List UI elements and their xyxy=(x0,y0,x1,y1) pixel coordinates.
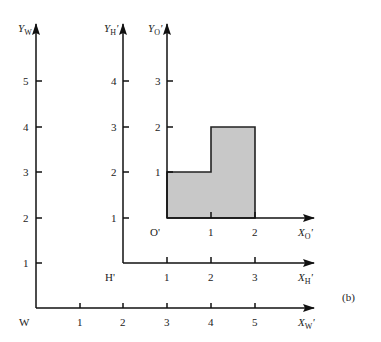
object-x-axis-label: XO' xyxy=(297,226,314,241)
house-y-tick-3: 3 xyxy=(111,121,117,133)
house-x-tick-2: 2 xyxy=(208,271,214,283)
panel-label: (b) xyxy=(342,291,355,304)
house-x-tick-1: 1 xyxy=(164,271,170,283)
l-shaped-object xyxy=(167,127,255,218)
world-x-tick-5: 5 xyxy=(252,316,258,328)
world-y-tick-4: 4 xyxy=(23,121,29,133)
house-x-axis-label: XH' xyxy=(297,271,314,286)
world-x-axis-label: XW' xyxy=(297,316,315,331)
house-y-axis-label: YH' xyxy=(104,22,119,37)
house-y-tick-4: 4 xyxy=(111,75,117,87)
object-y-tick-2: 2 xyxy=(155,121,161,133)
world-x-tick-3: 3 xyxy=(164,316,170,328)
house-y-tick-2: 2 xyxy=(111,166,117,178)
world-y-tick-3: 3 xyxy=(23,166,29,178)
world-x-tick-2: 2 xyxy=(120,316,126,328)
object-origin-label: O' xyxy=(150,226,160,238)
world-y-tick-5: 5 xyxy=(23,75,29,87)
world-frame xyxy=(36,24,314,308)
coordinate-diagram: W 1 2 3 4 5 1 2 3 4 5 YW XW' H' 1 2 3 1 … xyxy=(0,0,381,342)
object-y-tick-3: 3 xyxy=(155,75,161,87)
world-y-axis-label: YW xyxy=(18,22,32,37)
house-origin-label: H' xyxy=(105,271,115,283)
world-origin-label: W xyxy=(19,316,30,328)
object-x-tick-1: 1 xyxy=(208,226,214,238)
world-x-tick-1: 1 xyxy=(77,316,83,328)
world-x-tick-4: 4 xyxy=(208,316,214,328)
house-x-tick-3: 3 xyxy=(252,271,258,283)
object-y-tick-1: 1 xyxy=(155,166,161,178)
object-y-axis-label: YO' xyxy=(148,22,163,37)
world-y-tick-2: 2 xyxy=(23,212,29,224)
object-x-tick-2: 2 xyxy=(252,226,258,238)
world-y-tick-1: 1 xyxy=(23,257,29,269)
house-y-tick-1: 1 xyxy=(111,212,117,224)
